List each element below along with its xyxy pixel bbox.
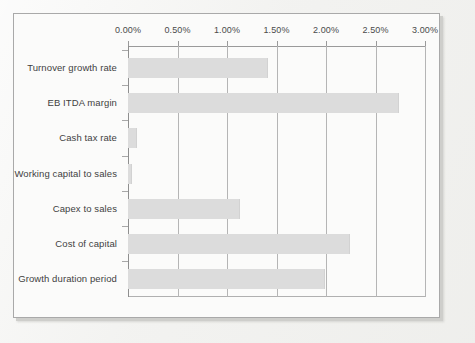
category-label: Growth duration period (18, 269, 117, 289)
bar-row: Capex to sales (128, 191, 425, 228)
bar-row: Growth duration period (128, 261, 425, 298)
chart-card: 0.00%0.50%1.00%1.50%2.00%2.50%3.00%Turno… (13, 13, 440, 318)
bar[interactable] (128, 269, 325, 289)
y-axis-tick (122, 156, 128, 157)
x-axis-label: 0.50% (164, 25, 190, 35)
x-axis-label: 1.00% (214, 25, 240, 35)
x-axis-label: 2.50% (362, 25, 388, 35)
bar[interactable] (128, 234, 350, 254)
y-axis-tick (122, 261, 128, 262)
y-axis-tick (122, 85, 128, 86)
x-axis-tick-5 (376, 41, 377, 46)
bar-row: Turnover growth rate (128, 50, 425, 87)
x-axis-label: 1.50% (263, 25, 289, 35)
x-axis-tick-1 (178, 41, 179, 46)
x-axis-label: 0.00% (115, 25, 141, 35)
plot-area: 0.00%0.50%1.00%1.50%2.00%2.50%3.00%Turno… (128, 46, 425, 297)
x-axis-tick-2 (227, 41, 228, 46)
bar-row: EB ITDA margin (128, 85, 425, 122)
x-axis-label: 2.00% (313, 25, 339, 35)
bar[interactable] (128, 199, 240, 219)
bar-row: Cost of capital (128, 226, 425, 263)
category-label: Capex to sales (53, 199, 117, 219)
category-label: Turnover growth rate (27, 58, 117, 78)
bar-row: Cash tax rate (128, 120, 425, 157)
x-axis-tick-6 (425, 41, 426, 46)
x-axis-label: 3.00% (412, 25, 438, 35)
category-label: Cash tax rate (59, 128, 117, 148)
x-axis-tick-3 (277, 41, 278, 46)
bar[interactable] (128, 93, 399, 113)
category-label: EB ITDA margin (47, 93, 117, 113)
y-axis-tick (122, 120, 128, 121)
gridline-6 (425, 46, 426, 297)
y-axis-tick (122, 50, 128, 51)
bar[interactable] (128, 164, 132, 184)
bar[interactable] (128, 58, 268, 78)
y-axis-tick (122, 191, 128, 192)
category-label: Working capital to sales (14, 164, 117, 184)
bar[interactable] (128, 128, 137, 148)
x-axis-tick-0 (128, 41, 129, 46)
category-label: Cost of capital (55, 234, 117, 254)
x-axis-tick-4 (326, 41, 327, 46)
y-axis-tick (122, 226, 128, 227)
bar-row: Working capital to sales (128, 156, 425, 193)
